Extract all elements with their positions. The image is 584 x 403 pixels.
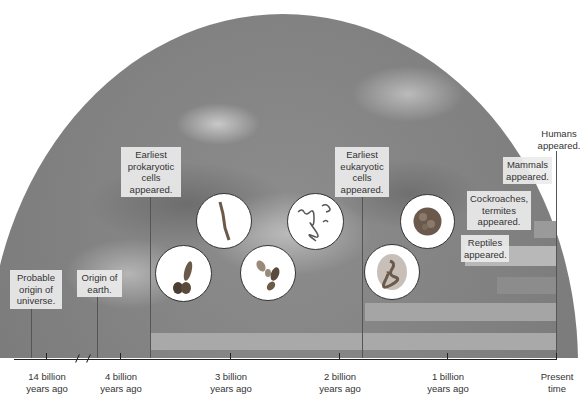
bar-eukaryotes	[365, 303, 556, 321]
tick-label-14-billion: 14 billion years ago	[26, 371, 68, 395]
tick-label-present: Present time	[541, 371, 574, 395]
tick-4-billion	[120, 353, 121, 360]
label-origin-universe: Probable origin of universe.	[10, 270, 62, 309]
tick-label-1-billion: 1 billion years ago	[427, 371, 469, 395]
micrograph-eukaryote-nucleated	[364, 244, 420, 300]
tick-1-billion	[447, 353, 448, 360]
timeline-axis	[14, 359, 556, 360]
label-cockroaches: Cockroaches, termites appeared.	[467, 191, 531, 230]
micrograph-eukaryote-round	[400, 194, 455, 249]
bar-mammals	[534, 221, 556, 238]
line-universe	[31, 306, 32, 358]
tick-2-billion	[339, 353, 340, 360]
bar-prokaryotes	[150, 333, 556, 350]
label-prokaryotic-cells: Earliest prokaryotic cells appeared.	[121, 147, 181, 197]
micrograph-prokaryote-dividing	[240, 245, 296, 301]
micrograph-prokaryote-filament	[196, 193, 252, 249]
label-mammals: Mammals appeared.	[503, 157, 552, 184]
tick-present	[556, 353, 557, 360]
tick-3-billion	[230, 353, 231, 360]
label-reptiles: Reptiles appeared.	[461, 235, 509, 262]
line-humans	[556, 151, 557, 358]
tick-label-2-billion: 2 billion years ago	[319, 371, 361, 395]
tick-label-4-billion: 4 billion years ago	[100, 371, 142, 395]
tick-label-3-billion: 3 billion years ago	[210, 371, 252, 395]
bar-reptiles	[497, 277, 556, 294]
label-origin-earth: Origin of earth.	[77, 270, 122, 297]
label-humans: Humans appeared.	[534, 126, 584, 153]
micrograph-prokaryote-spirochete	[287, 193, 344, 250]
label-eukaryotic-cells: Earliest eukaryotic cells appeared.	[335, 147, 389, 197]
line-prokaryotic	[150, 196, 151, 358]
line-eukaryotic	[362, 196, 363, 358]
line-earth	[97, 294, 98, 358]
micrograph-prokaryote-cocci	[155, 245, 212, 302]
tick-14-billion	[46, 353, 47, 360]
earth-background: Probable origin of universe. Origin of e…	[0, 0, 584, 358]
